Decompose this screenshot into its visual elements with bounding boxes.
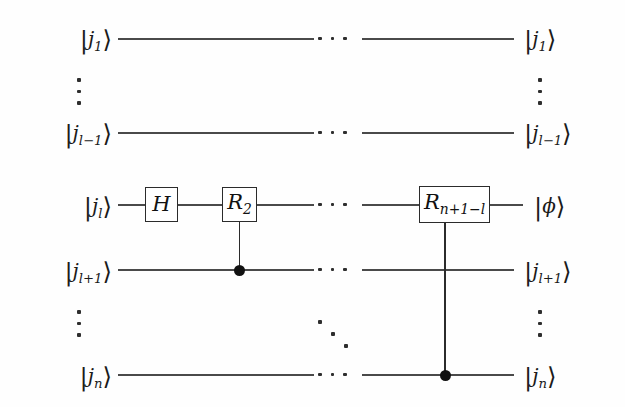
ellipsis-horizontal-wire2	[318, 131, 347, 135]
gate-phase-rotation-2[interactable]: R2	[222, 187, 257, 222]
gate-rn-subscript: n+1−l	[440, 201, 485, 217]
dot	[77, 90, 81, 94]
wire-j1-right	[362, 38, 514, 40]
dot	[538, 310, 542, 314]
ket-subscript: l+1	[79, 271, 103, 286]
dot	[331, 332, 335, 336]
ket-bar-close: ⟩	[547, 25, 557, 54]
dot	[331, 268, 335, 272]
dot	[538, 333, 542, 337]
output-label-phi: |ϕ⟩	[534, 195, 565, 219]
dot	[538, 322, 542, 326]
ket-bar-close: ⟩	[562, 119, 572, 148]
input-label-j1: |j1⟩	[40, 28, 112, 53]
dot	[77, 101, 81, 105]
dot	[318, 268, 322, 272]
ket-symbol-phi: ϕ	[542, 194, 556, 218]
wire-jl-seg-ellipsis-to-rn	[362, 204, 419, 206]
ket-bar-open: |	[524, 362, 532, 391]
output-label-j1: |j1⟩	[524, 28, 556, 53]
wire-j1-left	[118, 38, 314, 40]
ket-subscript: l+1	[538, 271, 562, 286]
input-label-jl: |jl⟩	[40, 195, 112, 220]
dot	[318, 373, 322, 377]
dot	[77, 333, 81, 337]
dot	[538, 78, 542, 82]
dot	[318, 320, 322, 324]
gate-r2-base: R	[227, 190, 243, 214]
ket-bar-close: ⟩	[102, 119, 112, 148]
wire-jl-1-left	[118, 132, 314, 134]
ellipsis-horizontal-wire5	[318, 373, 347, 377]
dot	[343, 373, 347, 377]
gate-rn-base: R	[424, 190, 440, 214]
dot	[538, 90, 542, 94]
output-label-jn: |jn⟩	[524, 365, 556, 390]
ellipsis-horizontal-wire3	[318, 203, 347, 207]
ellipsis-vertical-right-top	[538, 78, 542, 105]
gate-hadamard[interactable]: H	[145, 187, 178, 222]
ellipsis-vertical-right-bottom	[538, 310, 542, 337]
dot	[538, 101, 542, 105]
ellipsis-horizontal-wire1	[318, 37, 347, 41]
control-dot-rn-on-wire-jn	[440, 370, 451, 381]
ket-subscript: n	[538, 376, 547, 391]
quantum-circuit-diagram: |j1⟩ |j1⟩ |jl−1⟩ |jl−1⟩ |jl⟩ H R2	[0, 0, 625, 407]
wire-jl-seg-to-hadamard	[118, 204, 145, 206]
dot	[331, 203, 335, 207]
ket-subscript: l−1	[79, 133, 103, 148]
dot	[331, 131, 335, 135]
ket-bar-close: ⟩	[562, 257, 572, 286]
dot	[343, 203, 347, 207]
dot	[77, 78, 81, 82]
dot	[318, 37, 322, 41]
wire-jl-seg-rn-to-output	[490, 204, 523, 206]
ket-bar-open: |	[524, 25, 532, 54]
wire-jl-seg-r2-to-ellipsis	[257, 204, 314, 206]
ket-bar-open: |	[524, 119, 532, 148]
ket-subscript: l−1	[538, 133, 562, 148]
dot	[318, 203, 322, 207]
dot	[77, 322, 81, 326]
dot	[331, 373, 335, 377]
ket-bar-close: ⟩	[547, 362, 557, 391]
ellipsis-diagonal	[318, 320, 352, 348]
dot	[77, 310, 81, 314]
wire-jn-left	[118, 374, 314, 376]
gate-hadamard-label: H	[152, 194, 170, 215]
input-label-jl-1: |jl−1⟩	[18, 122, 112, 147]
gate-r2-subscript: 2	[243, 201, 252, 217]
ket-bar-open: |	[534, 192, 542, 221]
gate-phase-rotation-n-plus-1-minus-l[interactable]: Rn+1−l	[419, 186, 490, 223]
ket-bar-open: |	[80, 25, 88, 54]
ellipsis-horizontal-wire4	[318, 268, 347, 272]
ket-bar-open: |	[64, 119, 72, 148]
dot	[331, 37, 335, 41]
ket-bar-close: ⟩	[102, 257, 112, 286]
ket-bar-close: ⟩	[556, 192, 566, 221]
dot	[343, 37, 347, 41]
wire-jl-seg-h-to-r2	[178, 204, 222, 206]
dot	[343, 131, 347, 135]
ket-subscript: 1	[538, 39, 546, 54]
dot	[343, 268, 347, 272]
output-label-jl-1: |jl−1⟩	[524, 122, 572, 147]
ket-bar-open: |	[524, 257, 532, 286]
ellipsis-vertical-left-top	[77, 78, 81, 105]
dot	[344, 344, 348, 348]
ket-bar-close: ⟩	[102, 25, 112, 54]
ket-bar-close: ⟩	[102, 362, 112, 391]
input-label-jl+1: |jl+1⟩	[18, 260, 112, 285]
ellipsis-vertical-left-bottom	[77, 310, 81, 337]
ket-bar-close: ⟩	[102, 192, 112, 221]
control-line-rn	[444, 223, 446, 375]
ket-bar-open: |	[84, 192, 92, 221]
wire-jl+1-left	[118, 269, 314, 271]
wire-jl-1-right	[362, 132, 514, 134]
output-label-jl+1: |jl+1⟩	[524, 260, 572, 285]
wire-jn-right	[362, 374, 514, 376]
input-label-jn: |jn⟩	[40, 365, 112, 390]
dot	[318, 131, 322, 135]
ket-bar-open: |	[80, 362, 88, 391]
ket-bar-open: |	[64, 257, 72, 286]
